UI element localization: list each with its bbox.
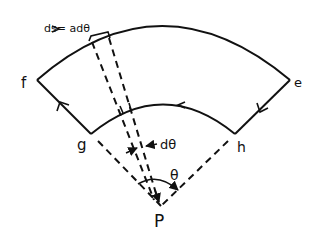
inner-tick-right bbox=[129, 103, 131, 110]
label-g: g bbox=[77, 136, 87, 154]
left-side bbox=[37, 80, 91, 134]
strip-edge-right bbox=[109, 38, 158, 200]
inner-arc bbox=[91, 105, 235, 135]
strip-arrow-to-P bbox=[155, 190, 159, 202]
ds-label: ds= adθ bbox=[44, 22, 90, 35]
dtheta-arrow-left bbox=[126, 148, 137, 153]
label-e: e bbox=[294, 75, 302, 90]
strip-edge-left bbox=[92, 42, 154, 200]
label-P: P bbox=[154, 211, 164, 231]
dtheta-arrow-right bbox=[146, 144, 157, 146]
label-dtheta: dθ bbox=[160, 137, 176, 152]
label-f: f bbox=[21, 74, 27, 92]
label-theta: θ bbox=[170, 167, 179, 183]
label-h: h bbox=[237, 139, 246, 155]
inner-arc-arrow-icon bbox=[178, 102, 185, 108]
right-side bbox=[235, 80, 290, 134]
sector-loop-diagram: ds= adθ f e g h dθ θ P bbox=[0, 0, 311, 244]
